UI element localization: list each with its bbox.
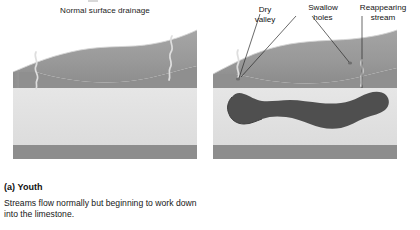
caption-body-a: Streams flow normally but beginning to w… [4,198,204,221]
callout-reappearing-stream: Reappearing stream [352,3,414,22]
figure-root: Normal surface drainage [0,0,420,230]
panel-a-youth-stage: Normal surface drainage [0,0,210,230]
callout-dry-valley: Dry valley [243,5,287,24]
left-face-a [13,70,19,88]
swallow-hole-left-b [236,78,240,81]
callout-swallow-holes: Swallow holes [298,3,348,22]
limestone-layer-a [13,88,197,145]
basement-layer-a [13,145,197,159]
block-diagram-b [210,0,420,180]
block-diagram-a [0,0,210,180]
panel-b-karst-stage: (b) [210,0,420,230]
caption-label-a: (a) Youth [4,182,43,192]
basement-layer-b [213,145,397,159]
